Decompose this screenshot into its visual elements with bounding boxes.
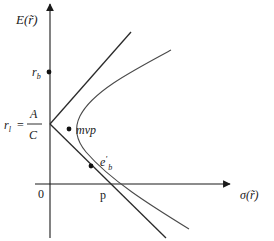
e-b-point	[89, 164, 94, 169]
mean-variance-diagram: E(r̃) rb rl = A C mvp e'b 0 p σ(r̃)	[0, 0, 274, 241]
lower-tangent-line	[50, 124, 166, 238]
origin-label: 0	[38, 187, 44, 201]
upper-asymptote-line	[50, 32, 131, 124]
r-b-label: rb	[32, 65, 41, 81]
fraction-numerator: A	[29, 107, 38, 121]
r-l-label: rl	[4, 118, 12, 134]
y-axis-label: E(r̃)	[15, 12, 38, 27]
equals-sign: =	[17, 118, 24, 132]
e-b-label: e'b	[100, 154, 112, 172]
efficient-frontier-curve	[77, 50, 189, 229]
x-axis-label: σ(r̃)	[240, 188, 259, 202]
p-label: p	[100, 188, 106, 202]
mvp-point	[67, 127, 72, 132]
r-b-point	[47, 70, 52, 75]
mvp-label: mvp	[76, 123, 96, 137]
fraction-denominator: C	[29, 128, 38, 142]
